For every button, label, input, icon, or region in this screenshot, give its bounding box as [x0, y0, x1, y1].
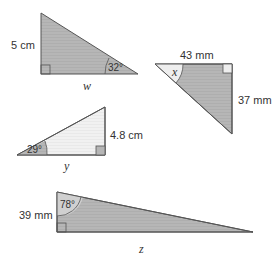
unknown-label: z — [138, 242, 144, 256]
side-label: 39 mm — [19, 209, 53, 221]
angle-label: 29° — [27, 144, 42, 155]
triangle-shape — [41, 13, 138, 74]
angle-label: 32° — [108, 62, 123, 73]
side-label: 5 cm — [11, 39, 35, 51]
unknown-label: x — [171, 65, 178, 79]
triangle-y: 29° 4.8 cm y — [17, 107, 143, 173]
triangle-w: 5 cm 32° w — [11, 13, 138, 93]
right-angle-marker — [223, 64, 232, 73]
unknown-label: w — [83, 79, 91, 93]
triangle-z: 78° 39 mm z — [19, 192, 253, 256]
side-label: 37 mm — [238, 94, 272, 106]
triangle-x: 43 mm x 37 mm — [155, 49, 272, 134]
side-label: 4.8 cm — [110, 129, 143, 141]
top-label: 43 mm — [180, 49, 214, 61]
unknown-label: y — [63, 159, 70, 173]
right-angle-marker — [96, 146, 105, 155]
angle-label: 78° — [60, 199, 75, 210]
trig-diagram: 5 cm 32° w 43 mm x 37 mm 29° 4.8 cm y 78… — [0, 0, 277, 258]
